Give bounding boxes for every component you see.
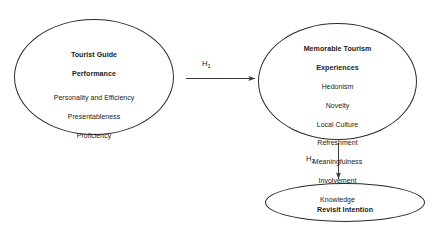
node-memorable-tourism-experiences-text: Memorable Tourism Experiences Hedonism N… — [258, 37, 417, 207]
h2-label: H2 — [306, 154, 315, 163]
node-item: Refreshment — [317, 139, 357, 146]
h1-label: H1 — [202, 59, 211, 68]
h2-subscript: 2 — [311, 158, 314, 164]
node-title: Revisit Intention — [317, 206, 373, 214]
node-item: Hedonism — [322, 83, 354, 90]
conceptual-model-diagram: Tourist Guide Performance Personality an… — [0, 0, 436, 233]
node-title-line1: Tourist Guide — [71, 51, 117, 59]
title-list-spacer — [14, 81, 174, 86]
node-item: Local Culture — [317, 121, 359, 128]
node-title-line2: Performance — [72, 70, 116, 78]
node-item: Proficiency — [77, 132, 111, 139]
node-item: Personality and Efficiency — [54, 94, 135, 101]
node-item: Novelty — [326, 102, 349, 109]
node-revisit-intention-text: Revisit Intention — [265, 198, 425, 217]
node-item: Meaningfulness — [313, 158, 362, 165]
node-title-line2: Experiences — [316, 64, 358, 72]
node-tourist-guide-performance-text: Tourist Guide Performance Personality an… — [14, 43, 174, 142]
node-title-line1: Memorable Tourism — [304, 45, 372, 53]
node-item: Presentableness — [68, 113, 120, 120]
h1-subscript: 1 — [207, 63, 210, 69]
